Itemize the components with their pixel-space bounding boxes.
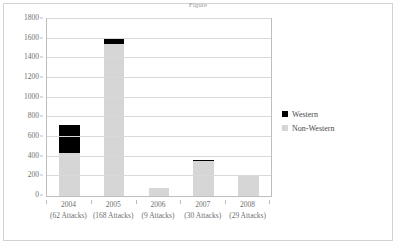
y-tick-mark (40, 155, 43, 156)
y-tick-mark (40, 57, 43, 58)
x-category-sublabel: (168 Attacks) (91, 211, 136, 222)
gridline (47, 136, 271, 137)
gridline (47, 77, 271, 78)
y-tick-mark (40, 77, 43, 78)
y-tick-mark (40, 136, 43, 137)
y-tick-label: 400 (28, 152, 39, 160)
gridline (47, 18, 271, 19)
x-tick-mark (91, 200, 92, 204)
y-tick-mark (40, 96, 43, 97)
bar-segment-non-western[interactable] (193, 161, 214, 196)
x-category-year: 2005 (91, 200, 136, 211)
x-category-year: 2007 (180, 200, 225, 211)
y-tick-label: 1000 (24, 93, 39, 101)
gray-square-icon (282, 125, 288, 131)
legend-item-label: Western (292, 110, 318, 119)
bar-group[interactable] (149, 188, 170, 196)
y-tick-mark (40, 195, 43, 196)
bar-group[interactable] (238, 175, 259, 196)
x-tick-mark (269, 200, 270, 204)
bar-segment-non-western[interactable] (238, 176, 259, 196)
legend-item[interactable]: Western (282, 107, 390, 121)
y-tick-label: 1400 (24, 54, 39, 62)
y-tick-label: 200 (28, 172, 39, 180)
chart-legend: WesternNon-Western (282, 107, 390, 135)
y-tick-label: 1800 (24, 14, 39, 22)
x-tick-mark (225, 200, 226, 204)
x-category-year: 2006 (136, 200, 181, 211)
x-category-sublabel: (62 Attacks) (46, 211, 91, 222)
gridline (47, 175, 271, 176)
x-category-year: 2008 (225, 200, 270, 211)
y-tick-mark (40, 37, 43, 38)
bars-layer (47, 19, 271, 196)
y-tick-label: 600 (28, 132, 39, 140)
x-category-sublabel: (9 Attacks) (136, 211, 181, 222)
gridline (47, 156, 271, 157)
x-axis: 2004(62 Attacks)2005(168 Attacks)2006(9 … (46, 200, 272, 240)
bar-group[interactable] (193, 160, 214, 196)
x-tick-mark (136, 200, 137, 204)
x-category-sublabel: (30 Attacks) (180, 211, 225, 222)
y-axis: 020040060080010001200140016001800 (12, 18, 43, 197)
chart-title: Figure (4, 1, 392, 8)
y-tick-label: 800 (28, 113, 39, 121)
plot-area (46, 18, 272, 197)
legend-item-label: Non-Western (292, 124, 334, 133)
gridline (47, 38, 271, 39)
y-tick-mark (40, 116, 43, 117)
gridline (47, 116, 271, 117)
black-square-icon (282, 111, 288, 117)
y-tick-label: 1200 (24, 73, 39, 81)
bar-segment-non-western[interactable] (104, 44, 125, 196)
y-tick-mark (40, 18, 43, 19)
x-category-label: 2006(9 Attacks) (136, 200, 181, 222)
x-category-label: 2005(168 Attacks) (91, 200, 136, 222)
y-tick-label: 1600 (24, 34, 39, 42)
x-category-sublabel: (29 Attacks) (225, 211, 270, 222)
page-frame: Figure 020040060080010001200140016001800… (3, 3, 393, 241)
x-tick-mark (46, 200, 47, 204)
x-category-year: 2004 (46, 200, 91, 211)
legend-item[interactable]: Non-Western (282, 121, 390, 135)
gridline (47, 57, 271, 58)
bar-segment-non-western[interactable] (149, 188, 170, 196)
x-category-label: 2004(62 Attacks) (46, 200, 91, 222)
y-tick-mark (40, 175, 43, 176)
bar-segment-western[interactable] (59, 125, 80, 153)
x-tick-mark (180, 200, 181, 204)
x-category-label: 2007(30 Attacks) (180, 200, 225, 222)
x-category-label: 2008(29 Attacks) (225, 200, 270, 222)
gridline (47, 97, 271, 98)
y-tick-label: 0 (35, 191, 39, 199)
